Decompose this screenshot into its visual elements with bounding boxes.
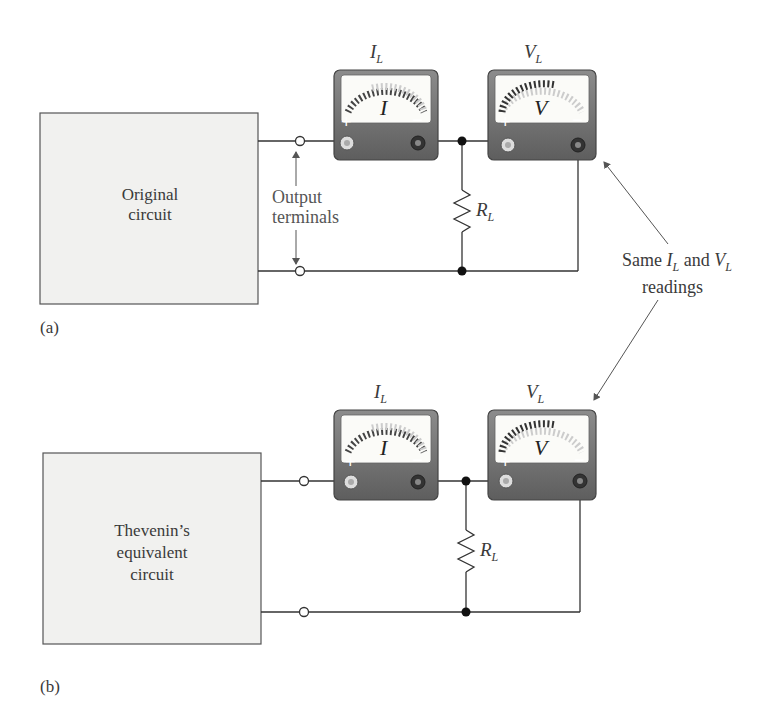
panel-a-label: (a): [40, 318, 59, 338]
resistor-label-a: RL: [476, 200, 494, 227]
output-terminal-bottom: [296, 267, 305, 276]
voltmeter-label-a: VL: [524, 42, 542, 69]
voltmeter-face-b: V: [534, 438, 547, 458]
minus-sign: −: [574, 450, 585, 470]
ammeter-label-a: IL: [370, 42, 383, 69]
junction-dot: [462, 477, 471, 486]
wires-b: [261, 481, 580, 612]
plus-sign: +: [345, 452, 356, 472]
thevenin-equivalent-text: Thevenin’sequivalentcircuit: [92, 520, 212, 586]
resistor-label-b: RL: [480, 540, 498, 567]
plus-sign: +: [341, 112, 352, 132]
original-circuit-text: Originalcircuit: [100, 185, 200, 225]
output-terminal-top: [300, 477, 309, 486]
plus-sign: +: [500, 112, 511, 132]
minus-sign: −: [572, 110, 583, 130]
voltmeter-label-b: VL: [526, 382, 544, 409]
annotation-arrow-down-icon: [594, 300, 658, 400]
ammeter-face-b: I: [380, 438, 387, 458]
ammeter-label-b: IL: [374, 382, 387, 409]
annotation-text: Same IL and VL readings: [622, 250, 732, 297]
panel-b-label: (b): [40, 677, 60, 697]
output-terminals-label: Outputterminals: [272, 187, 339, 227]
ammeter-face-a: I: [380, 98, 387, 118]
minus-sign: −: [412, 450, 423, 470]
junction-dot: [458, 267, 467, 276]
minus-sign: −: [412, 110, 423, 130]
output-terminal-top: [296, 137, 305, 146]
plus-sign: +: [500, 452, 511, 472]
output-terminal-bottom: [300, 608, 309, 617]
circuit-diagram: [0, 0, 779, 712]
voltmeter-face-a: V: [534, 98, 547, 118]
annotation-arrow-up-icon: [604, 162, 668, 244]
junction-dot: [458, 137, 467, 146]
junction-dot: [462, 608, 471, 617]
